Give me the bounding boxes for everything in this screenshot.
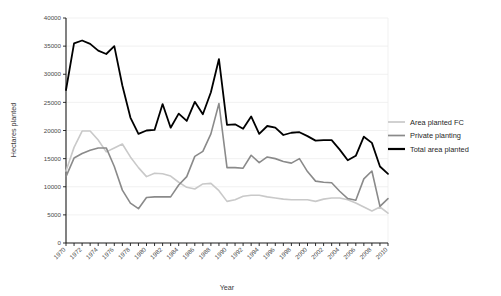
y-tick-label: 25000 <box>44 99 62 106</box>
series-line-total-area-planted <box>66 41 388 174</box>
x-axis-title: Year <box>220 283 235 292</box>
x-tick-label: 1990 <box>213 245 228 260</box>
x-tick-label: 1970 <box>52 245 67 260</box>
x-tick-label: 1994 <box>245 245 260 260</box>
grid-lines <box>66 18 388 243</box>
y-tick-label: 0 <box>58 239 62 246</box>
x-tick-label: 1988 <box>197 245 212 260</box>
x-tick-label: 1996 <box>261 245 276 260</box>
y-axis-title: Hectares planted <box>9 103 18 157</box>
x-tick-label: 2002 <box>310 245 325 260</box>
y-tick-label: 10000 <box>44 183 62 190</box>
legend-label: Total area planted <box>410 145 469 154</box>
x-tick-label: 1984 <box>165 245 180 260</box>
x-tick-label: 2010 <box>374 245 389 260</box>
chart-container: 0500010000150002000025000300003500040000… <box>0 0 501 296</box>
data-series-lines <box>66 41 388 214</box>
y-tick-label: 20000 <box>44 127 62 134</box>
y-tick-label: 35000 <box>44 42 62 49</box>
x-tick-label: 1972 <box>68 245 83 260</box>
x-tick-label: 1980 <box>133 245 148 260</box>
x-tick-label: 2006 <box>342 245 357 260</box>
x-tick-label: 1974 <box>84 245 99 260</box>
y-tick-label: 15000 <box>44 155 62 162</box>
y-tick-label: 5000 <box>47 211 61 218</box>
x-tick-label: 1976 <box>100 245 115 260</box>
chart-legend: Area planted FCPrivate plantingTotal are… <box>388 118 469 154</box>
x-tick-label: 2004 <box>326 245 341 260</box>
x-tick-label: 2000 <box>294 245 309 260</box>
series-line-area-planted-fc <box>66 131 388 213</box>
y-tick-label: 40000 <box>44 14 62 21</box>
line-chart-figure: 0500010000150002000025000300003500040000… <box>0 0 501 296</box>
x-tick-label: 2008 <box>358 245 373 260</box>
x-tick-label: 1992 <box>229 245 244 260</box>
y-tick-label: 30000 <box>44 70 62 77</box>
x-tick-label: 1982 <box>149 245 164 260</box>
x-tick-label: 1986 <box>181 245 196 260</box>
legend-label: Area planted FC <box>410 118 464 127</box>
x-tick-label: 1978 <box>116 245 131 260</box>
x-tick-label: 1998 <box>277 245 292 260</box>
x-axis-tick-labels: 1970197219741976197819801982198419861988… <box>52 243 389 260</box>
y-axis-tick-labels: 0500010000150002000025000300003500040000 <box>44 14 66 246</box>
legend-label: Private planting <box>410 131 461 140</box>
